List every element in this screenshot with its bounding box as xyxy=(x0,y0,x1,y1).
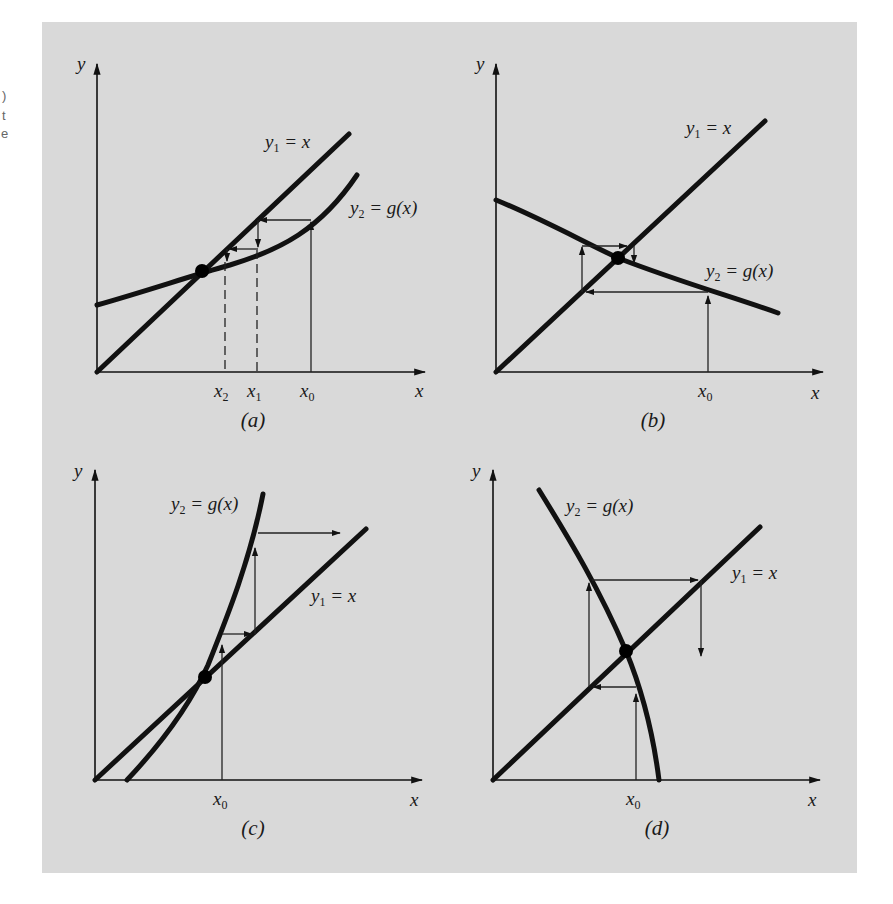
y-axis-label: y xyxy=(72,460,83,481)
fixed-point-marker xyxy=(619,644,633,658)
y-axis-label: y xyxy=(474,53,485,74)
line-label: y1 = x xyxy=(309,585,357,609)
margin-fragment: t xyxy=(2,108,6,123)
x-axis-label: x xyxy=(414,380,424,401)
panel-caption: (d) xyxy=(645,816,670,840)
fixed-point-marker xyxy=(195,264,209,278)
margin-fragment: e xyxy=(1,126,8,141)
panel-caption: (b) xyxy=(641,408,666,432)
y-axis-label: y xyxy=(470,460,481,481)
curve-label: y2 = g(x) xyxy=(169,493,238,517)
margin-text: ) t e xyxy=(1,88,8,141)
x-axis-label: x xyxy=(409,789,419,810)
line-label: y1 = x xyxy=(730,562,778,586)
line-label: y1 = x xyxy=(684,117,732,141)
curve-label: y2 = g(x) xyxy=(564,495,633,519)
curve-label: y2 = g(x) xyxy=(704,260,773,284)
fixed-point-marker xyxy=(611,251,625,265)
fixed-point-iteration-figure: ) t e y x y1 = x y2 = g(x) x2 x1 x0 (a) … xyxy=(0,0,893,904)
margin-fragment: ) xyxy=(2,88,6,103)
x-axis-label: x xyxy=(810,382,820,403)
line-label: y1 = x xyxy=(263,131,311,155)
curve-label: y2 = g(x) xyxy=(348,197,417,221)
panel-caption: (a) xyxy=(241,408,266,432)
x-axis-label: x xyxy=(807,789,817,810)
y-axis-label: y xyxy=(75,53,86,74)
fixed-point-marker xyxy=(198,670,212,684)
panel-caption: (c) xyxy=(241,816,264,840)
